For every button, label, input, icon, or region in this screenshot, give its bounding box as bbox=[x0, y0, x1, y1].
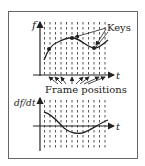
t-axis-label-bottom: t bbox=[116, 121, 121, 132]
keys-label: Keys bbox=[107, 22, 131, 33]
frame-positions-label: Frame positions bbox=[45, 84, 127, 95]
key-point bbox=[92, 46, 96, 50]
top-plot: f t Keys Frame positions bbox=[31, 19, 131, 95]
f-axis-label: f bbox=[31, 19, 38, 32]
bottom-plot: df/dt t bbox=[14, 98, 121, 151]
key-point bbox=[47, 47, 51, 51]
keys-arrow bbox=[75, 28, 106, 37]
frame-position-arrows bbox=[49, 77, 105, 84]
key-point bbox=[70, 36, 74, 40]
df-dt-axis-label: df/dt bbox=[14, 98, 36, 108]
t-axis-label-top: t bbox=[116, 70, 121, 81]
df-dt-curve bbox=[44, 112, 108, 133]
grid-lines bbox=[45, 100, 106, 150]
animation-curve-diagram: f t Keys Frame positions bbox=[0, 0, 145, 166]
